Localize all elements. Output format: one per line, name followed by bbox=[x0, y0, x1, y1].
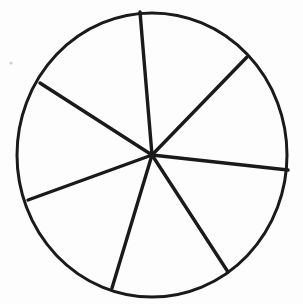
spoke-lower-left bbox=[28, 155, 152, 200]
spoke-upper-right bbox=[152, 57, 247, 155]
spoke-top bbox=[140, 12, 152, 155]
circle-sectors-diagram bbox=[0, 0, 303, 304]
spoke-group bbox=[28, 12, 288, 288]
center-point bbox=[149, 152, 154, 157]
artifact-group bbox=[9, 61, 12, 64]
ink-speck bbox=[9, 61, 12, 64]
center-vertex bbox=[149, 152, 154, 157]
spoke-bottom bbox=[112, 155, 152, 288]
figure-root bbox=[0, 0, 303, 304]
spoke-right bbox=[152, 155, 288, 170]
spoke-lower-right bbox=[152, 155, 228, 272]
spoke-upper-left bbox=[40, 83, 152, 155]
